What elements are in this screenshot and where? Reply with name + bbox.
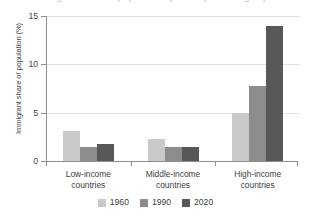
- x-axis-category-label-line: countries: [203, 180, 311, 191]
- x-axis-category-label-line: High-income: [203, 169, 311, 180]
- y-axis-tick-label: 10: [0, 60, 38, 69]
- y-axis-tick-mark: [41, 113, 46, 114]
- legend-item[interactable]: 1990: [140, 198, 171, 207]
- bar: [80, 147, 97, 162]
- y-axis-line: [46, 16, 47, 162]
- y-axis-tick-mark: [41, 16, 46, 17]
- legend-label: 1990: [152, 198, 171, 207]
- x-axis-tick-mark: [131, 161, 132, 166]
- x-axis-line: [46, 161, 297, 162]
- legend-label: 1960: [110, 198, 129, 207]
- chart-title: Immigrant share of population by country…: [36, 0, 296, 2]
- y-axis-tick-mark: [41, 64, 46, 65]
- legend-swatch-icon: [182, 199, 190, 207]
- x-axis-category-label: High-incomecountries: [203, 169, 311, 190]
- x-axis-tick-mark: [46, 161, 47, 166]
- chart-legend: 196019902020: [0, 198, 311, 207]
- y-axis-title: Immigrant share of population (%): [14, 0, 23, 159]
- legend-item[interactable]: 2020: [182, 198, 213, 207]
- bar: [232, 113, 249, 161]
- y-axis-tick-label: 0: [0, 157, 38, 166]
- bar: [266, 26, 283, 161]
- gridline: [46, 16, 300, 17]
- gridline: [46, 64, 300, 65]
- legend-swatch-icon: [98, 199, 106, 207]
- legend-label: 2020: [194, 198, 213, 207]
- bar: [63, 131, 80, 161]
- y-axis-tick-label: 15: [0, 12, 38, 21]
- x-axis-tick-mark: [297, 161, 298, 166]
- legend-swatch-icon: [140, 199, 148, 207]
- bar: [182, 147, 199, 161]
- bar: [97, 144, 114, 161]
- bar: [148, 139, 165, 161]
- plot-area: [46, 16, 300, 161]
- bar: [249, 86, 266, 161]
- legend-item[interactable]: 1960: [98, 198, 129, 207]
- bar: [165, 147, 182, 161]
- bar-chart-figure: Immigrant share of population by country…: [0, 0, 311, 219]
- y-axis-tick-label: 5: [0, 109, 38, 118]
- x-axis-tick-mark: [215, 161, 216, 166]
